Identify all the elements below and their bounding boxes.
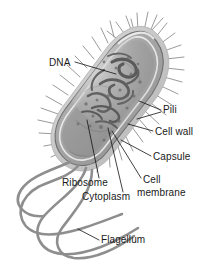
label-ribosome: Ribosome (62, 177, 108, 188)
label-cell-membrane-line2: membrane (137, 187, 186, 198)
label-pili: Pili (163, 104, 177, 115)
bacterial-cell-diagram: DNA Pili Cell wall Capsule Cell membrane… (0, 0, 209, 271)
label-flagellum: Flagellum (101, 234, 145, 245)
label-dna: DNA (49, 57, 71, 68)
leader-flagellum (78, 229, 99, 240)
label-cell-membrane-line1: Cell (143, 174, 161, 185)
diagram-canvas: DNA Pili Cell wall Capsule Cell membrane… (0, 0, 209, 271)
label-cytoplasm: Cytoplasm (82, 191, 130, 202)
label-capsule: Capsule (153, 151, 191, 162)
label-cell-wall: Cell wall (155, 126, 193, 137)
